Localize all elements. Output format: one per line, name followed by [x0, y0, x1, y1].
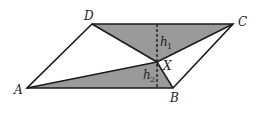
parallelogram-figure: D C A B X h 1 h 2	[0, 0, 262, 113]
label-c: C	[238, 15, 247, 29]
label-a: A	[13, 83, 23, 97]
label-b: B	[169, 91, 179, 105]
label-d: D	[83, 9, 94, 23]
label-x: X	[162, 59, 172, 73]
diagram-canvas: D C A B X h 1 h 2	[0, 0, 262, 113]
label-h1-sub: 1	[167, 42, 172, 51]
label-h2-sub: 2	[150, 75, 155, 84]
